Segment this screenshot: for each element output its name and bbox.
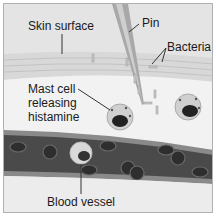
- label-blood-vessel: Blood vessel: [47, 196, 115, 209]
- label-mast-cell-1: Mast cell: [28, 83, 75, 96]
- label-mast-cell-2: releasing: [28, 97, 77, 110]
- label-pin: Pin: [142, 17, 159, 30]
- diagram: Skin surface Pin Bacteria Mast cell rele…: [0, 0, 216, 216]
- label-skin-surface: Skin surface: [28, 20, 94, 33]
- label-mast-cell-3: histamine: [28, 111, 79, 124]
- diagram-frame: Skin surface Pin Bacteria Mast cell rele…: [3, 3, 213, 213]
- label-bacteria: Bacteria: [167, 41, 211, 54]
